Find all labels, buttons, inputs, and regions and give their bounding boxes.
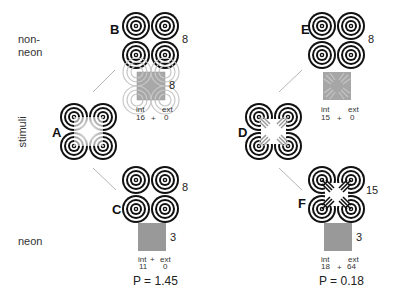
panel-letter-f: F bbox=[298, 196, 306, 211]
count-c: 8 bbox=[182, 181, 188, 193]
patch-count-f: 3 bbox=[356, 231, 362, 243]
stimulus-e bbox=[308, 12, 365, 69]
stimulus-f bbox=[308, 166, 365, 223]
stimulus-c bbox=[122, 166, 179, 223]
plus-e: + bbox=[337, 115, 342, 123]
ext-value-f: 64 bbox=[347, 263, 356, 271]
row-label-neon: neon bbox=[18, 235, 42, 248]
patch-c bbox=[138, 223, 166, 251]
connector-line bbox=[93, 168, 116, 190]
plus-b: + bbox=[151, 115, 156, 123]
stimulus-b bbox=[122, 12, 179, 69]
patch-f bbox=[324, 223, 352, 251]
panel-letter-c: C bbox=[112, 202, 121, 217]
plus-f: + bbox=[337, 264, 342, 272]
panel-letter-b: B bbox=[110, 22, 119, 37]
row-label-line: non- bbox=[18, 33, 42, 46]
int-value-c: 11 bbox=[139, 263, 147, 271]
int-value-e: 15 bbox=[321, 114, 330, 122]
connector-line bbox=[279, 70, 302, 92]
int-value-f: 18 bbox=[321, 263, 330, 271]
p-value-f: P = 0.18 bbox=[319, 274, 364, 288]
int-value-b: 16 bbox=[136, 114, 145, 122]
count-e: 8 bbox=[368, 33, 374, 45]
panel-letter-a: A bbox=[52, 125, 61, 140]
ext-value-e: 0 bbox=[350, 114, 354, 122]
row-label-non-neon: non- neon bbox=[18, 33, 42, 59]
connector-line bbox=[279, 168, 302, 190]
patch-count-b: 8 bbox=[169, 79, 175, 91]
p-value-c: P = 1.45 bbox=[133, 274, 178, 288]
panel-letter-d: D bbox=[238, 125, 247, 140]
count-b: 8 bbox=[182, 33, 188, 45]
patch-count-c: 3 bbox=[170, 231, 176, 243]
ext-value-c: 0 bbox=[163, 263, 167, 271]
panel-letter-e: E bbox=[301, 22, 310, 37]
figure-graphics bbox=[0, 0, 393, 294]
side-label-stimuli: stimuli bbox=[16, 112, 28, 152]
stimulus-d bbox=[245, 103, 302, 160]
count-f: 15 bbox=[366, 184, 378, 196]
patch-e bbox=[323, 72, 351, 100]
plus-c: + bbox=[150, 256, 155, 264]
row-label-line: neon bbox=[18, 46, 42, 59]
connector-line bbox=[93, 70, 115, 92]
stimulus-a bbox=[60, 103, 117, 160]
ext-value-b: 0 bbox=[164, 114, 168, 122]
